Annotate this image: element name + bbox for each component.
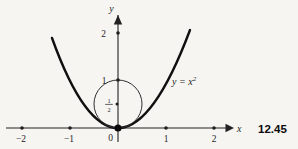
y-tick-label-1: 1 [102,76,107,86]
fraction-numerator: 1 [107,97,110,104]
y-tick-label-2: 2 [101,29,106,39]
equation-label: y = x2 [171,75,197,88]
figure-canvas: −2 −1 0 1 2 2 1 1 2 y x y = x2 12.45 [0,0,298,149]
origin-label: 0 [108,133,113,143]
figure-number: 12.45 [258,123,287,135]
y-axis-label: y [108,3,114,14]
textbook-figure: −2 −1 0 1 2 2 1 1 2 y x y = x2 12.45 [0,0,298,149]
x-tick-label-1: 1 [164,134,169,144]
circle-center-dot [116,103,119,106]
x-tick-dot-neg1 [68,126,72,130]
equation-base: y = x [171,76,193,87]
x-tick-label-2: 2 [212,134,217,144]
x-tick-label-neg1: −1 [64,134,74,144]
parabola-curve [52,30,190,128]
x-tick-label-neg2: −2 [16,134,26,144]
fraction-denominator: 2 [107,106,110,113]
y-axis-arrowhead-icon [114,15,122,25]
half-fraction-label: 1 2 [105,97,113,113]
x-tick-dot-1 [164,126,168,130]
x-tick-dot-neg2 [20,126,24,130]
x-tick-dot-2 [212,126,216,130]
x-axis-arrowhead-icon [226,124,235,132]
y-tick-dot-1 [116,78,120,82]
origin-dot [114,124,121,131]
x-axis-label: x [236,123,242,134]
y-tick-dot-2 [116,31,120,35]
equation-exponent: 2 [193,75,197,83]
